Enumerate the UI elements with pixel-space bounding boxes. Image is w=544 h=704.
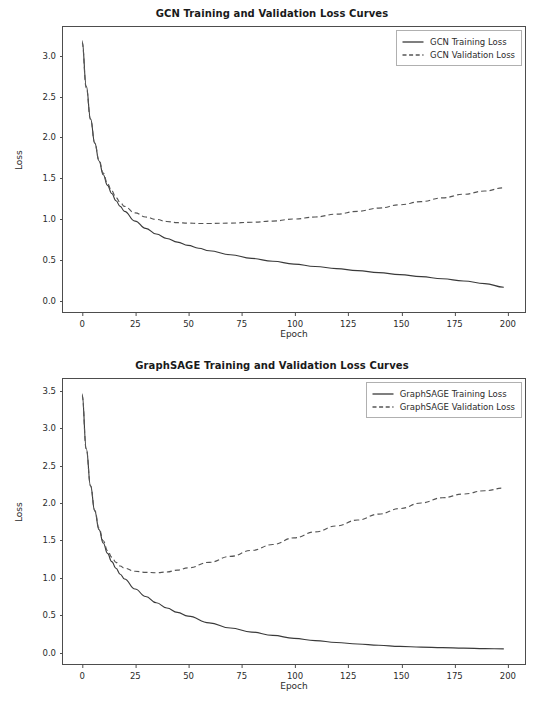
x-tick-label: 200 <box>500 312 516 329</box>
dashed-line-icon <box>402 50 424 60</box>
x-tick-label: 25 <box>130 664 141 681</box>
dashed-line-icon <box>372 402 394 412</box>
page-title: GCN Training and Validation Loss Curves <box>0 8 544 19</box>
series-line-val <box>82 395 504 572</box>
chart-panel-graphsage: GraphSAGE Training and Validation Loss C… <box>0 352 544 704</box>
x-tick-label: 100 <box>287 312 303 329</box>
solid-line-icon <box>402 37 424 47</box>
plot-lines-graphsage <box>63 379 525 664</box>
y-tick-label: 1.0 <box>42 573 63 583</box>
series-line-train <box>82 41 504 287</box>
legend-item[interactable]: GCN Training Loss <box>402 35 515 48</box>
y-tick-label: 0.5 <box>42 610 63 620</box>
legend-item[interactable]: GCN Validation Loss <box>402 48 515 61</box>
y-tick-label: 2.5 <box>42 461 63 471</box>
y-tick-label: 0.0 <box>42 648 63 658</box>
solid-line-icon <box>372 389 394 399</box>
y-axis-label-top: Loss <box>14 150 24 170</box>
y-tick-label: 0.5 <box>42 255 63 265</box>
legend-item[interactable]: GraphSAGE Training Loss <box>372 387 515 400</box>
legend-label: GraphSAGE Validation Loss <box>400 402 515 412</box>
y-tick-label: 3.0 <box>42 423 63 433</box>
legend-gcn[interactable]: GCN Training LossGCN Validation Loss <box>396 30 522 66</box>
x-tick-label: 0 <box>79 312 84 329</box>
series-line-train <box>82 394 504 649</box>
x-tick-label: 125 <box>340 664 356 681</box>
y-tick-label: 2.5 <box>42 92 63 102</box>
y-tick-label: 2.0 <box>42 498 63 508</box>
x-tick-label: 50 <box>183 664 194 681</box>
x-axis-label-top: Epoch <box>62 329 526 339</box>
plot-area-graphsage: 0.00.51.01.52.02.53.03.5 025507510012515… <box>62 378 526 665</box>
x-tick-label: 175 <box>447 664 463 681</box>
plot-lines-gcn <box>63 27 525 312</box>
figure-canvas: GCN Training and Validation Loss Curves … <box>0 0 544 704</box>
legend-item[interactable]: GraphSAGE Validation Loss <box>372 400 515 413</box>
y-tick-label: 1.0 <box>42 214 63 224</box>
legend-graphsage[interactable]: GraphSAGE Training LossGraphSAGE Validat… <box>366 382 522 418</box>
y-tick-label: 0.0 <box>42 296 63 306</box>
x-tick-label: 50 <box>183 312 194 329</box>
x-tick-label: 150 <box>393 664 409 681</box>
x-tick-label: 0 <box>79 664 84 681</box>
y-tick-label: 1.5 <box>42 535 63 545</box>
x-axis-label-bottom: Epoch <box>62 681 526 691</box>
x-tick-label: 25 <box>130 312 141 329</box>
x-tick-label: 75 <box>236 312 247 329</box>
x-tick-label: 100 <box>287 664 303 681</box>
x-tick-label: 150 <box>393 312 409 329</box>
y-tick-label: 2.0 <box>42 132 63 142</box>
y-axis-label-bottom: Loss <box>14 502 24 522</box>
x-tick-label: 125 <box>340 312 356 329</box>
legend-label: GCN Validation Loss <box>430 50 515 60</box>
x-tick-label: 75 <box>236 664 247 681</box>
legend-label: GraphSAGE Training Loss <box>400 389 507 399</box>
plot-area-gcn: 0.00.51.01.52.02.53.0 025507510012515017… <box>62 26 526 313</box>
chart-panel-gcn: GCN Training and Validation Loss Curves … <box>0 0 544 352</box>
y-tick-label: 1.5 <box>42 173 63 183</box>
series-line-val <box>82 42 504 223</box>
y-tick-label: 3.5 <box>42 386 63 396</box>
x-tick-label: 200 <box>500 664 516 681</box>
x-tick-label: 175 <box>447 312 463 329</box>
page-title-2: GraphSAGE Training and Validation Loss C… <box>0 360 544 371</box>
y-tick-label: 3.0 <box>42 51 63 61</box>
legend-label: GCN Training Loss <box>430 37 506 47</box>
